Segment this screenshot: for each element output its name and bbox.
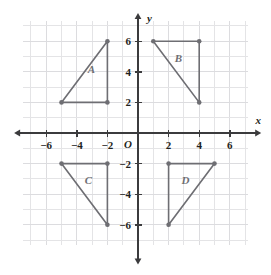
x-axis-tick-label: −6 [40,139,52,151]
triangle-vertex-point [105,161,110,166]
triangle-vertex-point [105,100,110,105]
y-axis-label: y [145,12,152,24]
y-axis-tick-label: −2 [119,158,131,170]
y-axis-tick-label: 4 [126,66,132,78]
x-axis-tick-label: 6 [227,139,233,151]
x-axis-tick-label: 2 [166,139,172,151]
triangle-label-c: C [85,174,93,186]
coordinate-plane-svg: −6−4−2246642−2−4−6OxyABCD [0,0,271,275]
triangle-label-d: D [180,174,189,186]
labels-layer: −6−4−2246642−2−4−6OxyABCD [40,12,261,231]
triangle-vertex-point [59,161,64,166]
y-axis-tick-label: −4 [119,188,131,200]
triangle-vertex-point [105,223,110,228]
x-axis-label: x [254,114,261,126]
triangle-vertex-point [197,39,202,44]
y-axis-tick-label: 6 [126,35,132,47]
triangle-label-a: A [87,63,95,75]
y-axis-arrow-up [135,13,142,19]
coordinate-plane-figure: −6−4−2246642−2−4−6OxyABCD [0,0,271,275]
x-axis-tick-label: −2 [102,139,114,151]
triangle-vertex-point [151,39,156,44]
origin-label: O [124,138,132,150]
x-axis-arrow-right [255,130,261,137]
y-axis-arrow-down [135,259,142,265]
triangle-vertex-point [166,223,171,228]
triangle-label-b: B [174,52,182,64]
triangle-vertex-point [59,100,64,105]
triangle-vertex-point [105,39,110,44]
y-axis-tick-label: 2 [126,96,132,108]
triangle-vertex-point [212,161,217,166]
triangle-vertex-point [197,100,202,105]
x-axis-tick-label: −4 [71,139,83,151]
y-axis-tick-label: −6 [119,219,131,231]
x-axis-tick-label: 4 [196,139,202,151]
triangle-vertex-point [166,161,171,166]
x-axis-arrow-left [14,130,20,137]
